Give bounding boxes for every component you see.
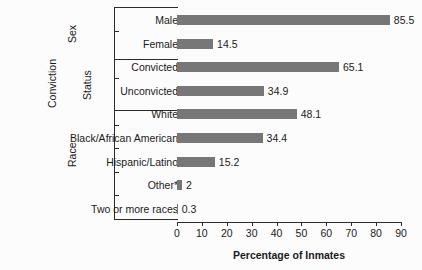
- bar: [177, 15, 390, 25]
- x-axis-tick: [252, 222, 253, 226]
- x-axis-tick: [326, 222, 327, 226]
- bar-row: Other*2: [0, 172, 422, 199]
- group-bracket-nub: [114, 172, 119, 173]
- bar-row: Hispanic/Latino15.2: [0, 148, 422, 175]
- x-axis-tick-label: 30: [240, 227, 264, 239]
- bar-container: 2: [177, 180, 192, 190]
- bar-container: 34.9: [177, 86, 288, 96]
- category-label: Black/African American: [6, 132, 178, 144]
- category-label: Other*: [6, 179, 178, 191]
- x-axis-tick-label: 50: [289, 227, 313, 239]
- x-axis-tick: [202, 222, 203, 226]
- bar-container: 15.2: [177, 157, 239, 167]
- x-axis-tick: [177, 222, 178, 226]
- category-label: Convicted: [6, 61, 178, 73]
- x-axis-tick-label: 40: [265, 227, 289, 239]
- bar-container: 65.1: [177, 62, 363, 72]
- chart-title-clipped: [0, 0, 422, 5]
- x-axis-tick-label: 90: [389, 227, 413, 239]
- bar-value-label: 34.4: [267, 132, 287, 144]
- bar-container: 48.1: [177, 109, 321, 119]
- bar: [177, 180, 182, 190]
- category-label: Female: [6, 38, 178, 50]
- bar-row: White48.1: [0, 101, 422, 128]
- bar-value-label: 0.3: [182, 203, 197, 215]
- group-bracket-nub: [114, 31, 119, 32]
- bar: [177, 86, 264, 96]
- bar-container: 34.4: [177, 133, 287, 143]
- bar-chart: Sex Conviction Status Race Male85.5Femal…: [0, 0, 422, 270]
- category-label: Unconvicted: [6, 85, 178, 97]
- x-axis-tick-label: 80: [364, 227, 388, 239]
- bar-value-label: 2: [186, 179, 192, 191]
- bar-rows: Male85.5Female14.5Convicted65.1Unconvict…: [0, 7, 422, 219]
- bar: [177, 62, 339, 72]
- x-axis-tick: [277, 222, 278, 226]
- bar-value-label: 65.1: [343, 61, 363, 73]
- category-label: Hispanic/Latino: [6, 156, 178, 168]
- x-axis-title: Percentage of Inmates: [177, 249, 401, 261]
- bar-value-label: 48.1: [301, 108, 321, 120]
- bar-container: 85.5: [177, 15, 414, 25]
- x-axis-tick-label: 10: [190, 227, 214, 239]
- bar-row: Unconvicted34.9: [0, 78, 422, 105]
- x-axis-tick: [376, 222, 377, 226]
- bar-value-label: 14.5: [217, 38, 237, 50]
- group-bracket-nub: [114, 125, 119, 126]
- x-axis-tick-label: 20: [215, 227, 239, 239]
- x-axis-line: [177, 222, 401, 223]
- x-axis-tick: [301, 222, 302, 226]
- bar-row: Two or more races0.3: [0, 195, 422, 222]
- bar-value-label: 15.2: [219, 156, 239, 168]
- category-label: Male: [6, 14, 178, 26]
- bar-row: Convicted65.1: [0, 54, 422, 81]
- x-axis-tick-label: 0: [165, 227, 189, 239]
- bar: [177, 204, 178, 214]
- bar-value-label: 34.9: [268, 85, 288, 97]
- bar-row: Male85.5: [0, 7, 422, 34]
- bar: [177, 109, 297, 119]
- group-bracket-nub: [114, 195, 119, 196]
- x-axis-tick: [227, 222, 228, 226]
- bar: [177, 133, 263, 143]
- group-bracket-nub: [114, 78, 119, 79]
- bar-container: 0.3: [177, 204, 196, 214]
- bar-container: 14.5: [177, 39, 238, 49]
- bar: [177, 39, 213, 49]
- x-axis-tick-label: 60: [314, 227, 338, 239]
- category-label: White: [6, 108, 178, 120]
- group-bracket-nub: [114, 148, 119, 149]
- bar-row: Black/African American34.4: [0, 125, 422, 152]
- x-axis-tick-label: 70: [339, 227, 363, 239]
- bar-value-label: 85.5: [394, 14, 414, 26]
- bar-row: Female14.5: [0, 31, 422, 58]
- bar: [177, 157, 215, 167]
- category-label: Two or more races: [6, 203, 178, 215]
- x-axis-tick: [401, 222, 402, 226]
- x-axis-tick: [351, 222, 352, 226]
